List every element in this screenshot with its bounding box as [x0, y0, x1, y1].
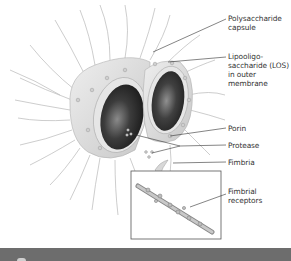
diagram-canvas: Polysaccharide capsule Lipooligo- saccha…	[0, 0, 291, 261]
label-lipooligosaccharide: Lipooligo- saccharide (LOS) in outer mem…	[228, 52, 289, 88]
caption-bar	[0, 248, 291, 261]
bacterium-illustration	[0, 0, 291, 261]
label-polysaccharide-capsule: Polysaccharide capsule	[228, 14, 282, 32]
label-protease: Protease	[228, 141, 259, 150]
label-fimbria: Fimbria	[228, 158, 255, 167]
label-fimbrial-receptors: Fimbrial receptors	[228, 187, 262, 205]
label-porin: Porin	[228, 124, 246, 133]
